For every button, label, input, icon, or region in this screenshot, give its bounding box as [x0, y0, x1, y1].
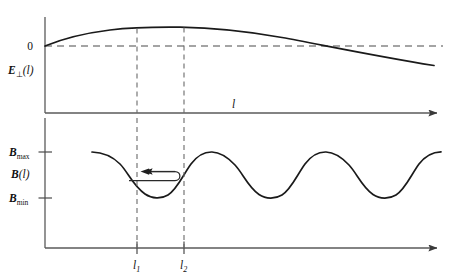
- b-min-label-subscript: min: [17, 198, 29, 207]
- b-axis-label-argument: (l): [19, 168, 30, 181]
- top-panel-x-axis-label: l: [232, 98, 235, 110]
- b-max-label-subscript: max: [17, 152, 30, 161]
- x-tick-label-l2: l2: [180, 259, 187, 274]
- x-tick-label-l2-subscript: 2: [183, 265, 187, 274]
- b-max-label-symbol: B: [8, 146, 17, 158]
- b-axis-label-symbol: B: [10, 168, 19, 180]
- e-perp-axis-label: E⊥(l): [7, 64, 34, 79]
- e-perp-axis-label-symbol: E: [7, 64, 16, 76]
- b-min-label-symbol: B: [8, 192, 17, 204]
- b-axis-label: B(l): [10, 168, 30, 181]
- e-perp-axis-label-subscript: ⊥: [16, 70, 23, 79]
- b-min-label: Bmin: [8, 192, 29, 207]
- e-perp-axis-label-argument: (l): [23, 64, 34, 77]
- b-max-label: Bmax: [8, 146, 30, 161]
- figure-container: 0 E⊥(l) l Bmax: [0, 0, 454, 276]
- bounce-arrow-head-icon: [141, 168, 151, 174]
- x-tick-label-l1: l1: [133, 259, 140, 274]
- x-tick-label-l1-subscript: 1: [136, 265, 140, 274]
- diagram-svg: 0 E⊥(l) l Bmax: [0, 0, 454, 276]
- zero-tick-label: 0: [27, 40, 33, 52]
- b-field-curve: [92, 152, 441, 198]
- bottom-panel: Bmax B(l) Bmin l1 l2: [8, 118, 441, 274]
- top-panel: 0 E⊥(l) l: [7, 17, 443, 113]
